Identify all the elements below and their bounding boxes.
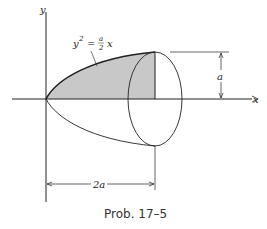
y-axis-label: y — [39, 4, 46, 15]
equation-equals: = — [87, 38, 95, 49]
equation-denominator: 2 — [98, 44, 104, 52]
dimension-a-label: a — [217, 71, 223, 82]
x-axis-label: x — [253, 94, 259, 105]
equation-exponent: 2 — [78, 35, 84, 43]
equation-lhs: y — [72, 38, 79, 49]
paraboloid-diagram: a 2a y x y 2 = a 2 x Prob. 17–5 — [0, 0, 267, 229]
shaded-region — [46, 52, 155, 99]
figure-caption: Prob. 17–5 — [104, 207, 167, 221]
parabola-lower — [46, 99, 155, 146]
equation-leader-line — [91, 51, 97, 66]
equation-numerator: a — [99, 35, 103, 43]
equation-variable: x — [107, 38, 113, 49]
dimension-2a-label: 2a — [92, 179, 105, 190]
